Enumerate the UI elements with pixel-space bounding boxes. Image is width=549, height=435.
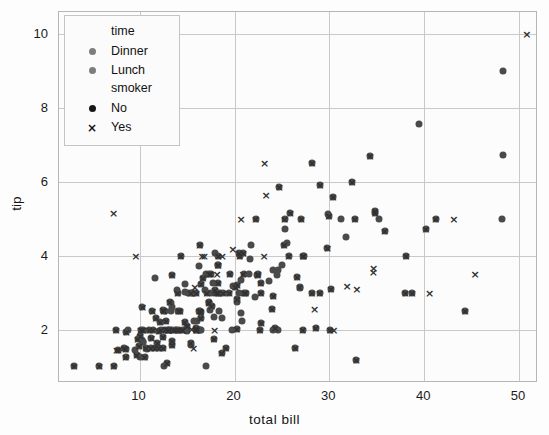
- data-point-yes: [228, 244, 237, 253]
- data-point-yes: [133, 335, 142, 344]
- data-point-yes: [251, 214, 260, 223]
- data-point-no: [298, 215, 305, 222]
- data-point-no: [141, 354, 148, 361]
- data-point-no: [241, 289, 248, 296]
- data-point-yes: [254, 270, 263, 279]
- y-tick-label: 2: [14, 321, 48, 336]
- data-point-yes: [192, 324, 201, 333]
- legend-item-smoker-yes[interactable]: × Yes: [73, 118, 171, 137]
- data-point-no: [309, 160, 316, 167]
- legend-item-smoker-no[interactable]: No: [73, 99, 171, 118]
- data-point-no: [205, 300, 212, 307]
- data-point-yes: [262, 190, 271, 199]
- data-point-no: [462, 308, 469, 315]
- data-point-yes: [109, 362, 118, 371]
- data-point-no: [189, 289, 196, 296]
- data-point-no: [110, 363, 117, 370]
- data-point-no: [155, 327, 162, 334]
- data-point-yes: [211, 288, 220, 297]
- data-point-yes: [212, 270, 221, 279]
- data-point-no: [272, 325, 279, 332]
- data-point-no: [342, 234, 349, 241]
- data-point-no: [152, 315, 159, 322]
- data-point-no: [324, 210, 331, 217]
- data-point-no: [175, 308, 182, 315]
- data-point-yes: [120, 343, 129, 352]
- legend-label-dinner: Dinner: [111, 42, 148, 61]
- x-tick-label: 40: [416, 388, 430, 403]
- data-point-no: [167, 299, 174, 306]
- data-point-no: [210, 279, 217, 286]
- data-point-yes: [159, 307, 168, 316]
- data-point-no: [161, 308, 168, 315]
- data-point-yes: [217, 349, 226, 358]
- data-point-yes: [225, 288, 234, 297]
- data-point-yes: [214, 279, 223, 288]
- data-point-yes: [146, 343, 155, 352]
- data-point-yes: [195, 240, 204, 249]
- data-point-no: [210, 313, 217, 320]
- data-point-no: [367, 153, 374, 160]
- data-point-no: [237, 276, 244, 283]
- data-point-yes: [275, 183, 284, 192]
- data-point-no: [191, 318, 198, 325]
- data-point-yes: [237, 214, 246, 223]
- data-point-no: [270, 267, 277, 274]
- gridline-horizontal: [59, 182, 536, 183]
- data-point-yes: [350, 214, 359, 223]
- data-point-no: [381, 227, 388, 234]
- data-point-no: [296, 285, 303, 292]
- data-point-no: [70, 363, 77, 370]
- y-tick-label: 4: [14, 247, 48, 262]
- data-point-no: [205, 299, 212, 306]
- legend-label-lunch: Lunch: [111, 61, 145, 80]
- data-point-yes: [279, 240, 288, 249]
- data-point-no: [132, 346, 139, 353]
- data-point-yes: [180, 318, 189, 327]
- data-point-no: [219, 315, 226, 322]
- data-point-no: [500, 68, 507, 75]
- data-point-no: [206, 271, 213, 278]
- data-point-no: [280, 241, 287, 248]
- data-point-no: [182, 281, 189, 288]
- data-point-yes: [209, 334, 218, 343]
- data-point-yes: [173, 288, 182, 297]
- data-point-no: [169, 271, 176, 278]
- data-point-no: [168, 304, 175, 311]
- data-point-yes: [150, 343, 159, 352]
- data-point-no: [199, 274, 206, 281]
- gridline-horizontal: [59, 330, 536, 331]
- data-point-no: [296, 284, 303, 291]
- data-point-yes: [286, 208, 295, 217]
- data-point-no: [143, 346, 150, 353]
- data-point-no: [338, 215, 345, 222]
- data-point-yes: [153, 339, 162, 348]
- data-point-yes: [352, 356, 361, 365]
- data-point-no: [257, 280, 264, 287]
- data-point-yes: [210, 285, 219, 294]
- data-point-yes: [121, 344, 130, 353]
- data-point-no: [160, 308, 167, 315]
- data-point-no: [188, 342, 195, 349]
- data-point-yes: [369, 268, 378, 277]
- data-point-no: [308, 289, 315, 296]
- data-point-yes: [109, 209, 118, 218]
- data-point-yes: [196, 308, 205, 317]
- data-point-no: [151, 344, 158, 351]
- data-point-yes: [186, 338, 195, 347]
- data-point-no: [255, 271, 262, 278]
- data-point-yes: [186, 288, 195, 297]
- data-point-no: [268, 306, 275, 313]
- data-point-yes: [380, 226, 389, 235]
- data-point-yes: [326, 285, 335, 294]
- data-point-no: [160, 307, 167, 314]
- legend-item-lunch[interactable]: Lunch: [73, 61, 171, 80]
- data-point-yes: [470, 270, 479, 279]
- data-point-no: [121, 344, 128, 351]
- data-point-no: [202, 287, 209, 294]
- data-point-yes: [421, 224, 430, 233]
- data-point-no: [207, 271, 214, 278]
- legend: time Dinner Lunch smoker No × Yes: [64, 15, 180, 146]
- legend-item-dinner[interactable]: Dinner: [73, 42, 171, 61]
- data-point-yes: [280, 214, 289, 223]
